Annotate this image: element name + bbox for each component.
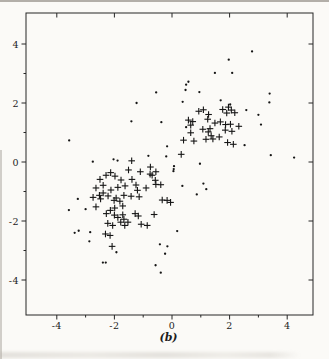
x-tick-label: 0 [169, 320, 176, 331]
data-point-dot [160, 271, 162, 273]
data-point-dot [245, 109, 247, 111]
data-point-dot [166, 145, 168, 147]
data-point-dot [268, 92, 270, 94]
data-point-dot [166, 245, 168, 247]
axis-frame [26, 13, 313, 315]
x-tick-label: -4 [52, 320, 62, 331]
data-point-dot [77, 198, 79, 200]
y-tick-label: 4 [12, 39, 19, 50]
data-point-dot [105, 261, 107, 263]
data-point-dot [176, 230, 178, 232]
y-tick-label: 0 [12, 157, 19, 168]
data-point-dot [293, 156, 295, 158]
data-point-dot [228, 58, 230, 60]
data-point-dot [102, 261, 104, 263]
y-tick-label: -4 [9, 275, 19, 286]
data-point-dot [220, 99, 222, 101]
y-tick-label: 2 [12, 98, 19, 109]
data-point-dot [243, 144, 245, 146]
data-point-dot [68, 209, 70, 211]
data-point-dot [229, 103, 231, 105]
data-point-dot [231, 72, 233, 74]
x-tick-label: 2 [226, 320, 233, 331]
data-point-dot [198, 91, 200, 93]
data-point-dot [164, 253, 166, 255]
data-point-dot [187, 81, 189, 83]
data-point-dot [130, 120, 132, 122]
data-point-dot [184, 89, 186, 91]
data-point-dot [159, 243, 161, 245]
data-point-dot [173, 165, 175, 167]
data-point-dot [116, 159, 118, 161]
data-point-dot [181, 185, 183, 187]
data-point-dot [182, 101, 184, 103]
data-point-dot [270, 154, 272, 156]
data-point-dot [92, 161, 94, 163]
data-point-dot [205, 188, 207, 190]
data-point-dot [199, 163, 201, 165]
data-point-dot [155, 91, 157, 93]
data-point-dot [268, 101, 270, 103]
figure-label: (b) [4, 331, 329, 344]
data-point-dot [88, 240, 90, 242]
data-point-dot [115, 251, 117, 253]
y-tick-label: -2 [9, 216, 19, 227]
data-point-dot [147, 155, 149, 157]
data-point-dot [135, 102, 137, 104]
data-point-dot [185, 84, 187, 86]
data-point-dot [165, 155, 167, 157]
plot-canvas: -4-2024-4-2024 [0, 0, 329, 359]
data-point-dot [78, 230, 80, 232]
data-point-dot [89, 231, 91, 233]
data-point-dot [173, 168, 175, 170]
x-tick-label: -2 [109, 320, 119, 331]
data-point-dot [196, 193, 198, 195]
scatter-figure: -4-2024-4-2024 (b) [0, 0, 329, 359]
data-point-dot [112, 158, 114, 160]
data-point-dot [154, 264, 156, 266]
data-point-dot [257, 114, 259, 116]
x-tick-label: 4 [284, 320, 291, 331]
data-point-dot [185, 126, 187, 128]
data-point-dot [74, 232, 76, 234]
data-point-dot [202, 182, 204, 184]
data-point-dot [260, 123, 262, 125]
data-point-dot [84, 208, 86, 210]
data-point-dot [251, 50, 253, 52]
data-point-dot [160, 121, 162, 123]
data-point-dot [172, 170, 174, 172]
data-point-dot [68, 139, 70, 141]
data-point-dot [214, 72, 216, 74]
